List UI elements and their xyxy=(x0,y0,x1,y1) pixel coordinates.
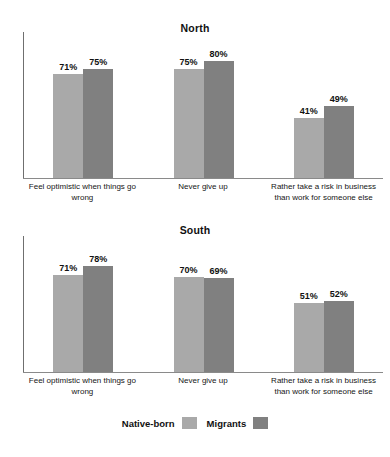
bar-south-1-native[interactable] xyxy=(174,277,204,372)
bar-south-0-migrant[interactable] xyxy=(83,266,113,372)
x-axis-label-south-1: Never give up xyxy=(144,376,263,397)
x-axis-label-south-2: Rather take a risk in business than work… xyxy=(264,376,383,397)
bar-value-label: 69% xyxy=(209,266,227,277)
bar-value-label: 52% xyxy=(330,289,348,300)
x-axis-line-north xyxy=(23,178,383,179)
bar-wrap-south-1-native: 70% xyxy=(174,236,204,372)
bar-wrap-south-2-native: 51% xyxy=(294,236,324,372)
bar-value-label: 49% xyxy=(330,94,348,105)
bar-value-label: 41% xyxy=(300,106,318,117)
bar-value-label: 75% xyxy=(89,57,107,68)
bar-value-label: 71% xyxy=(59,263,77,274)
bar-value-label: 75% xyxy=(179,57,197,68)
bar-north-0-migrant[interactable] xyxy=(83,69,113,179)
legend-swatch-migrants xyxy=(253,417,268,429)
bar-group-north-1: 75% 80% xyxy=(144,32,262,178)
x-axis-labels-south: Feel optimistic when things go wrong Nev… xyxy=(23,376,383,397)
plot-area-north: 71% 75% 75% 80% xyxy=(23,32,383,178)
bar-value-label: 51% xyxy=(300,291,318,302)
bar-groups-north: 71% 75% 75% 80% xyxy=(24,32,383,178)
bar-value-label: 80% xyxy=(209,49,227,60)
bar-group-south-0: 71% 78% xyxy=(24,236,142,372)
x-axis-labels-north: Feel optimistic when things go wrong Nev… xyxy=(23,182,383,203)
x-axis-label-north-2: Rather take a risk in business than work… xyxy=(264,182,383,203)
plot-area-south: 71% 78% 70% 69% xyxy=(23,236,383,372)
chart-title-south: South xyxy=(0,224,390,236)
bar-value-label: 70% xyxy=(179,265,197,276)
bar-wrap-north-1-native: 75% xyxy=(174,32,204,178)
bar-north-2-native[interactable] xyxy=(294,118,324,178)
chart-panel-north: North 71% 75% 75% 80% xyxy=(0,10,390,215)
x-axis-label-north-1: Never give up xyxy=(144,182,263,203)
bar-wrap-south-2-migrant: 52% xyxy=(324,236,354,372)
bar-wrap-north-2-native: 41% xyxy=(294,32,324,178)
bar-north-2-migrant[interactable] xyxy=(324,106,354,178)
bar-south-0-native[interactable] xyxy=(53,275,83,372)
bar-wrap-south-1-migrant: 69% xyxy=(204,236,234,372)
bar-value-label: 71% xyxy=(59,62,77,73)
x-axis-label-north-0: Feel optimistic when things go wrong xyxy=(23,182,142,203)
bar-wrap-north-0-native: 71% xyxy=(53,32,83,178)
bar-north-1-migrant[interactable] xyxy=(204,61,234,178)
bar-group-south-1: 70% 69% xyxy=(144,236,262,372)
bar-value-label: 78% xyxy=(89,254,107,265)
legend-item-native-born[interactable]: Native-born xyxy=(122,417,197,429)
chart-legend: Native-born Migrants xyxy=(0,417,390,429)
chart-panel-south: South 71% 78% 70% 69% xyxy=(0,218,390,408)
x-axis-label-south-0: Feel optimistic when things go wrong xyxy=(23,376,142,397)
bar-group-north-2: 41% 49% xyxy=(265,32,383,178)
bar-groups-south: 71% 78% 70% 69% xyxy=(24,236,383,372)
x-axis-line-south xyxy=(23,372,383,373)
bar-wrap-north-1-migrant: 80% xyxy=(204,32,234,178)
bar-wrap-south-0-native: 71% xyxy=(53,236,83,372)
bar-group-north-0: 71% 75% xyxy=(24,32,142,178)
bar-north-1-native[interactable] xyxy=(174,69,204,179)
bar-south-2-native[interactable] xyxy=(294,303,324,372)
bar-group-south-2: 51% 52% xyxy=(265,236,383,372)
bar-south-1-migrant[interactable] xyxy=(204,278,234,372)
bar-south-2-migrant[interactable] xyxy=(324,301,354,372)
legend-swatch-native-born xyxy=(182,417,197,429)
bar-wrap-south-0-migrant: 78% xyxy=(83,236,113,372)
legend-label-native-born: Native-born xyxy=(122,418,175,429)
bar-wrap-north-2-migrant: 49% xyxy=(324,32,354,178)
bar-north-0-native[interactable] xyxy=(53,74,83,178)
bar-wrap-north-0-migrant: 75% xyxy=(83,32,113,178)
legend-item-migrants[interactable]: Migrants xyxy=(207,417,269,429)
legend-label-migrants: Migrants xyxy=(207,418,247,429)
